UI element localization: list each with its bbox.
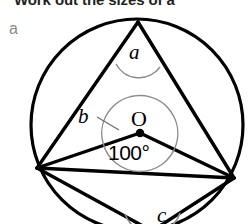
angle-label-c: c (157, 205, 166, 224)
leader-line-b (97, 117, 119, 130)
circle-theorem-diagram (0, 0, 250, 224)
angle-label-b: b (78, 106, 89, 127)
centre-label-o: O (131, 108, 147, 130)
chord-left-right (37, 168, 234, 178)
known-angle-value: 100° (108, 142, 149, 163)
angle-label-a: a (129, 42, 140, 63)
chord-left-bottom (37, 168, 152, 224)
angle-arc-a (116, 64, 160, 78)
geometry-question-screenshot: Work out the sizes of a a a b c O 100° (0, 0, 250, 224)
